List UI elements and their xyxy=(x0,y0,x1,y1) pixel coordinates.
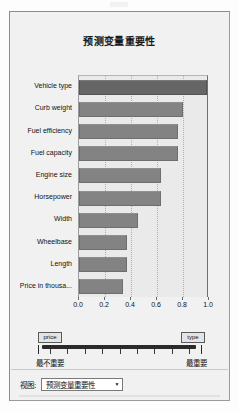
x-axis-tick-label: 0.8 xyxy=(177,301,187,308)
bar-row xyxy=(79,120,207,142)
x-axis-tick-label: 0.0 xyxy=(73,301,83,308)
bar xyxy=(79,80,207,95)
slider-tick xyxy=(50,349,51,354)
x-axis-tick-label: 0.2 xyxy=(99,301,109,308)
slider-tick xyxy=(85,349,86,354)
bar-row xyxy=(79,276,207,298)
y-axis-labels: Vehicle typeCurb weightFuel efficiencyFu… xyxy=(10,75,75,297)
slider-caption-least-important: 最不重要 xyxy=(36,357,64,368)
view-select[interactable]: 预测变量重要性 ▼ xyxy=(41,378,123,391)
importance-slider[interactable]: price type 最不重要 最重要 xyxy=(24,324,217,372)
footer-shadow xyxy=(19,395,220,397)
bar xyxy=(79,279,123,294)
bar-row xyxy=(79,143,207,165)
x-axis-tick xyxy=(208,297,209,300)
x-axis-tick-label: 0.4 xyxy=(125,301,135,308)
x-axis-tick xyxy=(182,297,183,300)
x-axis-tick xyxy=(78,297,79,300)
bar-row xyxy=(79,209,207,231)
y-axis-label: Fuel capacity xyxy=(10,142,75,164)
slider-tick xyxy=(102,349,103,354)
slider-tick xyxy=(137,349,138,354)
bar xyxy=(79,124,178,139)
bar xyxy=(79,146,178,161)
bar xyxy=(79,168,161,183)
bar-row xyxy=(79,187,207,209)
slider-caption-most-important: 最重要 xyxy=(186,357,207,368)
slider-tick xyxy=(154,349,155,354)
slider-endcap-right xyxy=(201,345,202,354)
bar xyxy=(79,213,138,228)
x-axis-tick-label: 0.6 xyxy=(151,301,161,308)
y-axis-label: Length xyxy=(10,253,75,275)
view-label: 视图: xyxy=(20,379,37,390)
x-axis-tick xyxy=(130,297,131,300)
y-axis-label: Horsepower xyxy=(10,186,75,208)
bar xyxy=(79,235,127,250)
x-axis: 0.00.20.40.60.81.0 xyxy=(78,297,208,313)
y-axis-label: Price in thousa... xyxy=(10,275,75,297)
slider-tick xyxy=(172,349,173,354)
y-axis-label: Engine size xyxy=(10,164,75,186)
y-axis-label: Curb weight xyxy=(10,97,75,119)
y-axis-label: Vehicle type xyxy=(10,75,75,97)
bar xyxy=(79,191,161,206)
bar-row xyxy=(79,76,207,98)
bar-row xyxy=(79,231,207,253)
view-select-value: 预测变量重要性 xyxy=(46,379,95,390)
slider-tick xyxy=(67,349,68,354)
chart-title: 预测变量重要性 xyxy=(10,33,229,48)
bar-series xyxy=(79,76,207,297)
slider-tick xyxy=(189,349,190,354)
top-artifact xyxy=(110,2,128,7)
chart-panel: 预测变量重要性 Vehicle typeCurb weightFuel effi… xyxy=(9,11,230,401)
chart-plot-wrapper: Vehicle typeCurb weightFuel efficiencyFu… xyxy=(10,62,231,312)
bar-row xyxy=(79,98,207,120)
bar xyxy=(79,102,183,117)
slider-endcap-left xyxy=(38,345,39,354)
y-axis-label: Fuel efficiency xyxy=(10,119,75,141)
x-axis-tick xyxy=(156,297,157,300)
bar-row xyxy=(79,165,207,187)
slider-handle-right[interactable]: type xyxy=(181,332,205,343)
bar-row xyxy=(79,254,207,276)
y-axis-label: Wheelbase xyxy=(10,230,75,252)
plot-area xyxy=(78,75,208,297)
x-axis-tick-label: 1.0 xyxy=(203,301,213,308)
bar xyxy=(79,257,127,272)
chevron-down-icon: ▼ xyxy=(115,382,120,387)
screenshot-root: 预测变量重要性 Vehicle typeCurb weightFuel effi… xyxy=(0,0,239,412)
slider-handle-left[interactable]: price xyxy=(38,332,62,343)
x-axis-tick xyxy=(104,297,105,300)
slider-tick xyxy=(120,349,121,354)
y-axis-label: Width xyxy=(10,208,75,230)
